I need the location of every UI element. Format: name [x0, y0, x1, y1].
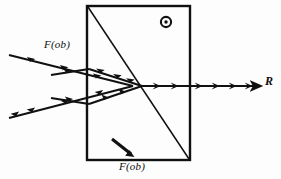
ray-optics-figure: F(ob) F(ob) R — [0, 0, 281, 179]
label-focal-object-top: F(ob) — [44, 38, 70, 50]
label-focal-object-bottom: F(ob) — [119, 160, 145, 172]
field-out-of-page-icon — [161, 17, 171, 27]
label-axis-r: R — [265, 74, 273, 89]
diagram-canvas — [0, 0, 281, 179]
incoming-ray-upper — [9, 55, 133, 86]
prism-diagonal — [88, 7, 189, 159]
direction-arrow-icon — [112, 139, 135, 157]
